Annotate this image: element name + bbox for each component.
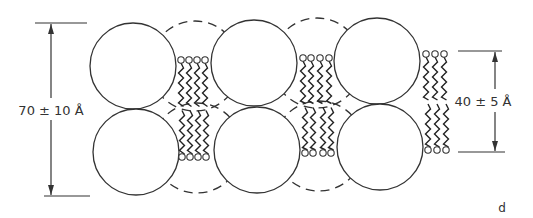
solid-sphere bbox=[211, 20, 297, 106]
panel-label: d bbox=[498, 201, 506, 215]
lipid-tail bbox=[444, 104, 449, 147]
solid-sphere bbox=[214, 107, 300, 193]
lipid-head bbox=[434, 147, 440, 153]
lipid-head bbox=[194, 57, 200, 63]
lipid-head bbox=[425, 147, 431, 153]
lipid-head bbox=[179, 154, 185, 160]
lipid-head bbox=[308, 55, 314, 61]
lipid-tail bbox=[442, 57, 447, 100]
lipid-head bbox=[441, 51, 447, 57]
lipid-head bbox=[423, 51, 429, 57]
lipid-head bbox=[317, 55, 323, 61]
arrow-down-icon bbox=[492, 141, 498, 151]
lipid-head bbox=[320, 150, 326, 156]
solid-sphere bbox=[334, 18, 420, 104]
lipid-tail bbox=[433, 57, 438, 100]
lipid-bilayer-diagram: 70 ± 10 Å 40 ± 5 Å d bbox=[0, 0, 533, 218]
lipid-tail bbox=[301, 61, 306, 104]
lipid-tail bbox=[303, 108, 308, 151]
lipid-tail bbox=[426, 104, 431, 147]
lipid-tail bbox=[327, 61, 332, 104]
lipid-tail bbox=[179, 63, 184, 107]
lipid-tail bbox=[204, 111, 209, 155]
left-dimension: 70 ± 10 Å bbox=[18, 23, 90, 196]
lipid-tail bbox=[188, 111, 193, 155]
lipid-head bbox=[195, 154, 201, 160]
arrow-up-icon bbox=[492, 52, 498, 62]
lipid-tail bbox=[435, 104, 440, 147]
lipid-head bbox=[302, 150, 308, 156]
lipid-tail bbox=[309, 61, 314, 104]
lipid-head bbox=[202, 57, 208, 63]
lipid-head bbox=[310, 150, 316, 156]
lipid-tail bbox=[424, 57, 429, 100]
dimension-label-70: 70 ± 10 Å bbox=[18, 103, 83, 118]
lipid-tail bbox=[187, 63, 192, 107]
dimension-label-40: 40 ± 5 Å bbox=[455, 94, 512, 109]
solid-sphere bbox=[93, 109, 179, 195]
lipid-tail bbox=[195, 63, 200, 107]
solid-sphere bbox=[337, 104, 423, 190]
lipid-head bbox=[432, 51, 438, 57]
lipid-tail bbox=[311, 108, 316, 151]
solid-spheres bbox=[90, 18, 423, 195]
right-dimension: 40 ± 5 Å bbox=[455, 51, 512, 152]
arrow-down-icon bbox=[48, 185, 54, 195]
lipid-head bbox=[178, 57, 184, 63]
lipid-tail bbox=[318, 61, 323, 104]
lipid-tail bbox=[196, 111, 201, 155]
lipid-tail bbox=[203, 63, 208, 107]
solid-sphere bbox=[90, 23, 176, 109]
lipid-head bbox=[326, 55, 332, 61]
lipid-head bbox=[203, 154, 209, 160]
lipid-tail bbox=[321, 108, 326, 151]
lipid-tail bbox=[180, 111, 185, 155]
lipid-head bbox=[443, 147, 449, 153]
arrow-up-icon bbox=[48, 24, 54, 34]
lipid-head bbox=[328, 150, 334, 156]
lipid-head bbox=[186, 57, 192, 63]
lipid-head bbox=[300, 55, 306, 61]
lipid-head bbox=[187, 154, 193, 160]
lipid-tail bbox=[329, 108, 334, 151]
